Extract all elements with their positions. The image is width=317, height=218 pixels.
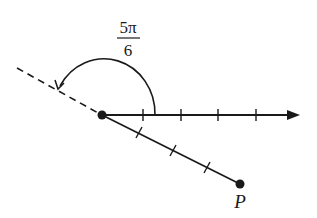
origin-point xyxy=(98,111,107,120)
terminal-side-dashed-line xyxy=(17,68,100,114)
ray-arrowhead-icon xyxy=(287,110,300,120)
angle-label-denominator: 6 xyxy=(124,41,133,60)
segment-ticks xyxy=(136,127,210,173)
point-p-label: P xyxy=(233,191,246,212)
point-p xyxy=(236,180,245,189)
angle-label-numerator: 5π xyxy=(119,18,137,37)
angle-diagram: 5π 6 P xyxy=(0,0,317,218)
segment-to-p xyxy=(102,115,240,184)
angle-arc xyxy=(60,59,155,115)
